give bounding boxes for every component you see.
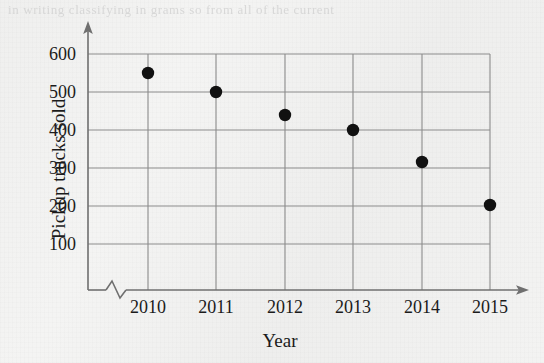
x-tick-label-2012: 2012 xyxy=(250,297,320,318)
x-tick-label-2015: 2015 xyxy=(455,297,525,318)
x-tick-label-2011: 2011 xyxy=(181,297,251,318)
vertical-gridlines xyxy=(148,54,490,290)
x-tick-label-2013: 2013 xyxy=(318,297,388,318)
x-axis-title: Year xyxy=(180,330,380,352)
data-point-2013 xyxy=(347,124,359,136)
x-axis xyxy=(88,281,529,298)
figure-container: in writing classifying in grams so from … xyxy=(0,0,544,363)
y-axis xyxy=(83,21,93,290)
data-point-2012 xyxy=(279,109,291,121)
data-points xyxy=(142,67,496,211)
data-point-2015 xyxy=(484,199,496,211)
data-point-2014 xyxy=(416,156,428,168)
x-tick-label-2014: 2014 xyxy=(387,297,457,318)
data-point-2010 xyxy=(142,67,154,79)
x-axis-break-zigzag-icon xyxy=(106,281,126,298)
x-tick-label-2010: 2010 xyxy=(113,297,183,318)
data-point-2011 xyxy=(210,86,222,98)
y-axis-title: Pickup trucks sold xyxy=(48,54,70,284)
